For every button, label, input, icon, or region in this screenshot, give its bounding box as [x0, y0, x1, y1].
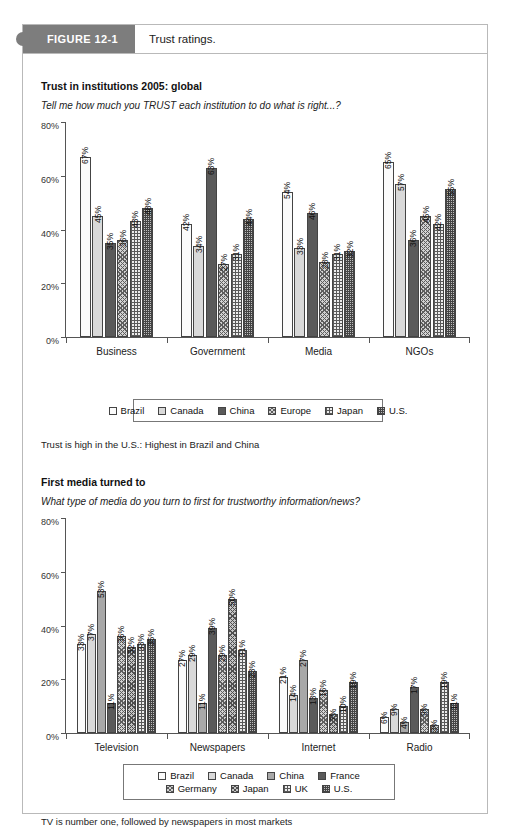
legend-label: Brazil [121, 405, 145, 416]
bar-value-label: 39% [207, 618, 217, 635]
bar-value-label: 35% [105, 233, 115, 250]
legend-item-canada: Canada [208, 770, 253, 781]
bar-china-television [97, 591, 106, 733]
bar-brazil-ngos [383, 162, 394, 337]
bar-china-media [307, 213, 318, 337]
bar-value-label: 9% [389, 704, 399, 716]
bar-china-ngos [408, 240, 419, 337]
legend-item-europe: Europe [268, 405, 311, 416]
y-axis-tick-mark [61, 679, 66, 680]
bar-value-label: 42% [433, 214, 443, 231]
x-axis-tick-mark [268, 733, 269, 739]
bar-value-label: 27% [298, 650, 308, 667]
x-axis-tick-mark [469, 337, 470, 343]
bar-value-label: 35% [146, 629, 156, 646]
bar-japan-television [127, 647, 136, 733]
chart2-note: TV is number one, followed by newspapers… [41, 816, 292, 827]
chart1-plot-area: 0%20%40%60%80%Business67%45%35%36%43%48%… [23, 122, 489, 372]
bar-brazil-media [282, 192, 293, 337]
bar-value-label: 44% [244, 209, 254, 226]
x-axis-category-label: Internet [302, 742, 336, 753]
legend-label: France [330, 770, 360, 781]
legend-swatch [231, 785, 239, 793]
bar-germany-television [117, 636, 126, 733]
bar-value-label: 63% [206, 158, 216, 175]
bar-value-label: 23% [247, 661, 257, 678]
legend-swatch [318, 772, 326, 780]
legend-item-japan: Japan [325, 405, 363, 416]
bar-europe-business [117, 240, 128, 337]
x-axis-tick-mark [167, 337, 168, 343]
bar-europe-ngos [420, 216, 431, 337]
x-axis-category-label: Newspapers [190, 742, 246, 753]
bar-us-television [147, 639, 156, 733]
bar-japan-media [332, 254, 343, 337]
bar-uk-television [137, 644, 146, 733]
bar-value-label: 14% [288, 685, 298, 702]
bar-value-label: 43% [130, 211, 140, 228]
bar-europe-media [319, 262, 330, 337]
bar-value-label: 6% [379, 712, 389, 724]
bar-value-label: 17% [409, 677, 419, 694]
bar-china-government [206, 168, 217, 337]
legend-label: Europe [280, 405, 311, 416]
bar-japan-business [130, 221, 141, 337]
bar-brazil-newspapers [178, 660, 187, 733]
plot-frame: 0%20%40%60%80%Business67%45%35%36%43%48%… [65, 122, 470, 338]
bar-germany-newspapers [218, 655, 227, 733]
x-axis-tick-mark [66, 733, 67, 739]
x-axis-tick-mark [469, 733, 470, 739]
bar-value-label: 36% [118, 230, 128, 247]
bar-value-label: 65% [383, 152, 393, 169]
header-notch-circle [16, 32, 30, 46]
y-axis-tick-mark [61, 572, 66, 573]
bar-value-label: 19% [439, 672, 449, 689]
x-axis-category-label: Media [305, 346, 332, 357]
bar-brazil-television [77, 644, 86, 733]
x-axis-tick-mark [167, 733, 168, 739]
bar-value-label: 7% [328, 709, 338, 721]
x-axis-tick-mark [369, 337, 370, 343]
bar-value-label: 4% [399, 717, 409, 729]
bar-value-label: 10% [338, 696, 348, 713]
bar-value-label: 34% [194, 236, 204, 253]
bar-brazil-government [181, 224, 192, 337]
bar-value-label: 29% [187, 645, 197, 662]
bar-value-label: 46% [307, 203, 317, 220]
x-axis-tick-mark [369, 733, 370, 739]
bar-us-newspapers [248, 671, 257, 733]
bar-value-label: 9% [419, 704, 429, 716]
bar-us-internet [349, 682, 358, 733]
bar-us-business [142, 208, 153, 337]
legend-label: Japan [337, 405, 363, 416]
legend-item-china: China [267, 770, 304, 781]
bar-value-label: 36% [116, 626, 126, 643]
legend-item-germany: Germany [166, 783, 217, 794]
bar-value-label: 53% [96, 581, 106, 598]
legend-swatch [158, 407, 166, 415]
figure-number-label: FIGURE 12-1 [47, 33, 118, 45]
bar-us-ngos [445, 189, 456, 337]
bar-france-radio [410, 687, 419, 733]
bar-value-label: 48% [143, 198, 153, 215]
legend-swatch [208, 772, 216, 780]
bar-value-label: 27% [219, 254, 229, 271]
bar-value-label: 3% [429, 720, 439, 732]
bar-value-label: 45% [421, 206, 431, 223]
bar-japan-ngos [433, 224, 444, 337]
x-axis-category-label: Television [95, 742, 139, 753]
figure-header: FIGURE 12-1 Trust ratings. [23, 25, 487, 54]
legend-item-japan: Japan [231, 783, 269, 794]
bar-us-government [243, 219, 254, 337]
chart1-note: Trust is high in the U.S.: Highest in Br… [41, 439, 259, 450]
bar-value-label: 33% [76, 634, 86, 651]
y-axis-tick-mark [61, 626, 66, 627]
bar-value-label: 27% [177, 650, 187, 667]
legend-label: Germany [178, 783, 217, 794]
bar-china-business [105, 243, 116, 337]
legend-item-china: China [218, 405, 255, 416]
legend-label: UK [295, 783, 308, 794]
bar-value-label: 31% [231, 244, 241, 261]
bar-france-newspapers [208, 628, 217, 733]
legend-label: China [279, 770, 304, 781]
